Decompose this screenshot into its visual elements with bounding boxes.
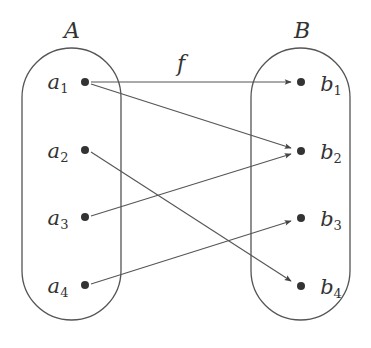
element-b1: b1 (320, 74, 342, 97)
element-a1: a1 (48, 72, 69, 95)
dot-a1 (81, 78, 89, 86)
element-b3: b3 (320, 209, 342, 232)
element-b2: b2 (320, 142, 342, 165)
set-b-label: B (294, 20, 310, 42)
set-a-label: A (64, 20, 80, 42)
element-a4: a4 (48, 276, 69, 299)
dot-a2 (81, 146, 89, 154)
dot-a3 (81, 213, 89, 221)
dot-b1 (297, 78, 305, 86)
function-label: f (177, 53, 185, 75)
dot-a4 (81, 281, 89, 289)
element-a2: a2 (48, 141, 69, 164)
element-a3: a3 (48, 208, 69, 231)
element-b4: b4 (320, 277, 342, 300)
dot-b2 (297, 147, 305, 155)
dot-b3 (297, 214, 305, 222)
dot-b4 (297, 282, 305, 290)
